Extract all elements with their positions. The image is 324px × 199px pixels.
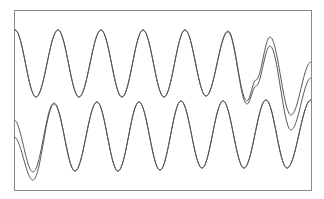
- series-line-upper-a: [14, 30, 311, 115]
- series-line-lower-b: [14, 100, 311, 180]
- line-chart: [0, 0, 324, 199]
- series-layer: [14, 30, 311, 180]
